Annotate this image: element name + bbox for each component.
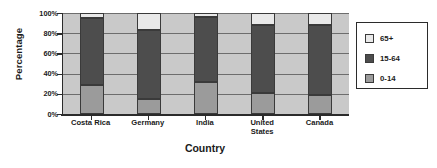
bar-segment-65+ [194, 13, 218, 17]
y-tick-label: 80% [24, 30, 58, 37]
bar-segment-15-64 [137, 30, 161, 99]
y-tick-mark [57, 74, 63, 75]
bar-segment-15-64 [194, 17, 218, 82]
legend-swatch-icon [365, 54, 374, 63]
x-tick-label: Canada [291, 118, 348, 127]
stacked-bar [137, 13, 161, 114]
y-tick-label: 100% [24, 10, 58, 17]
stacked-bar-chart: Percentage 0%20%40%60%80%100% Country 65… [0, 0, 437, 168]
stacked-bar [308, 13, 332, 114]
bar-group [194, 13, 218, 114]
y-tick-mark [57, 114, 63, 115]
legend-item[interactable]: 15-64 [365, 53, 400, 64]
plot-area [62, 13, 349, 114]
bar-segment-15-64 [251, 25, 275, 93]
bar-segment-65+ [80, 13, 104, 18]
y-tick-mark [57, 94, 63, 95]
y-axis-tick-labels: 0%20%40%60%80%100% [24, 13, 58, 114]
x-tick-label: Costa Rica [62, 118, 119, 127]
x-tick-label: United States [234, 118, 291, 136]
legend-label: 65+ [380, 34, 393, 43]
stacked-bar [251, 13, 275, 114]
bar-group [137, 13, 161, 114]
x-tick-label: India [176, 118, 233, 127]
y-tick-label: 60% [24, 50, 58, 57]
bar-segment-65+ [251, 13, 275, 25]
x-axis-title: Country [62, 142, 348, 154]
legend-swatch-icon [365, 74, 374, 83]
bar-segment-65+ [137, 13, 161, 30]
y-tick-label: 40% [24, 70, 58, 77]
y-tick-mark [57, 33, 63, 34]
x-tick-label: Germany [119, 118, 176, 127]
legend-label: 15-64 [380, 54, 400, 63]
bar-segment-65+ [308, 13, 332, 25]
bar-segment-0-14 [137, 99, 161, 114]
y-tick-label: 0% [24, 111, 58, 118]
y-tick-mark [57, 13, 63, 14]
legend-swatch-icon [365, 34, 374, 43]
stacked-bar [80, 13, 104, 114]
bar-segment-0-14 [80, 85, 104, 114]
legend-label: 0-14 [380, 74, 396, 83]
bar-group [308, 13, 332, 114]
bar-segment-0-14 [308, 95, 332, 114]
bar-group [80, 13, 104, 114]
y-tick-label: 20% [24, 90, 58, 97]
bar-segment-15-64 [308, 25, 332, 95]
legend-item[interactable]: 65+ [365, 33, 393, 44]
bar-segment-0-14 [194, 82, 218, 114]
y-tick-mark [57, 53, 63, 54]
bar-segment-0-14 [251, 93, 275, 114]
bar-group [251, 13, 275, 114]
stacked-bar [194, 13, 218, 114]
chart-legend: 65+15-640-14 [356, 22, 428, 89]
bar-segment-15-64 [80, 18, 104, 85]
legend-item[interactable]: 0-14 [365, 73, 396, 84]
